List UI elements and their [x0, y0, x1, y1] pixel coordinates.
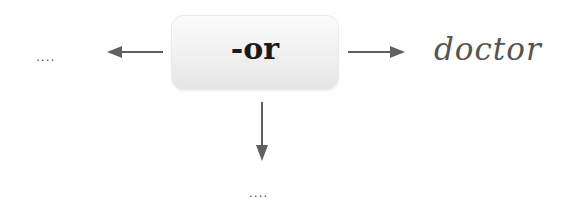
right-node-label: doctor — [434, 31, 542, 67]
left-ellipsis: .... — [36, 50, 55, 64]
arrow-down-icon — [256, 102, 268, 161]
central-node-box: -or — [172, 16, 338, 89]
arrow-left-icon — [107, 46, 163, 58]
central-node-label: -or — [231, 31, 279, 66]
bottom-ellipsis: .... — [249, 186, 268, 200]
arrow-right-icon — [348, 46, 405, 58]
